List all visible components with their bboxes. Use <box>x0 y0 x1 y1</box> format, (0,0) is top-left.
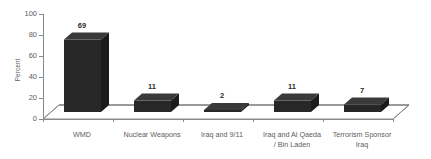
bar-front-wmd <box>64 40 101 113</box>
chart-canvas: 0 20 40 60 80 100 Percent <box>0 0 431 159</box>
y-tick-label-20: 20 <box>29 93 37 102</box>
bar-group-nuclear-weapons: 11 <box>134 82 179 112</box>
y-axis: 0 20 40 60 80 100 Percent <box>14 9 43 123</box>
cat-label-iraq-alqaeda-line2: / Bin Laden <box>274 140 310 149</box>
cat-label-terrorism-sponsor-line2: Iraq <box>356 140 368 149</box>
cat-label-nuclear-weapons: Nuclear Weapons <box>124 130 181 139</box>
y-axis-ticks <box>39 14 43 119</box>
floor-left-edge <box>43 105 59 119</box>
bar-value-iraq-911: 2 <box>220 91 224 100</box>
bar-group-iraq-911: 2 <box>204 91 249 112</box>
bar-value-terrorism-sponsor: 7 <box>360 86 364 95</box>
y-tick-label-40: 40 <box>29 72 37 81</box>
bar-front-iraq-911 <box>204 110 241 112</box>
cat-label-iraq-alqaeda-line1: Iraq and Al Qaeda <box>263 130 321 139</box>
bar-group-wmd: 69 <box>64 21 109 112</box>
bar-value-iraq-alqaeda: 11 <box>288 82 296 91</box>
y-tick-label-100: 100 <box>24 9 37 18</box>
cat-label-terrorism-sponsor-line1: Terrorism Sponsor <box>333 130 392 139</box>
y-tick-label-0: 0 <box>33 114 37 123</box>
y-axis-title: Percent <box>14 58 21 81</box>
bar-side-wmd <box>101 33 109 113</box>
bar-value-wmd: 69 <box>78 21 86 30</box>
bar-group-terrorism-sponsor: 7 <box>344 86 389 112</box>
bar-front-nuclear-weapons <box>134 101 171 113</box>
bar-group-iraq-alqaeda: 11 <box>274 82 319 112</box>
y-tick-label-80: 80 <box>29 30 37 39</box>
y-tick-label-60: 60 <box>29 51 37 60</box>
bar-value-nuclear-weapons: 11 <box>148 82 156 91</box>
bar-front-iraq-alqaeda <box>274 101 311 113</box>
floor-right-edge <box>393 105 409 119</box>
bar-chart: 0 20 40 60 80 100 Percent <box>0 0 431 159</box>
bar-front-terrorism-sponsor <box>344 105 381 112</box>
x-axis-labels: WMD Nuclear Weapons Iraq and 9/11 Iraq a… <box>73 130 392 149</box>
cat-label-iraq-911: Iraq and 9/11 <box>201 130 243 139</box>
cat-label-wmd: WMD <box>73 130 91 139</box>
